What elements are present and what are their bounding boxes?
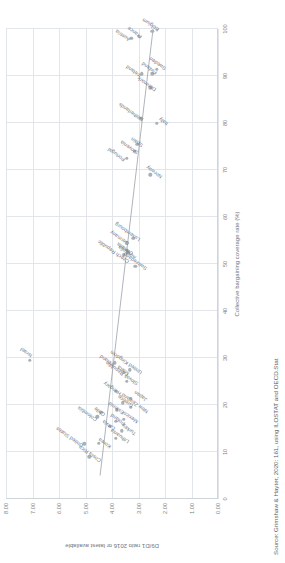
- y-tick-label: 1.00: [189, 503, 195, 533]
- data-point-label: Italy: [158, 116, 169, 126]
- data-point-label: Israel: [19, 347, 33, 359]
- point-labels: Costa RicaUnited StatesKoreaLithuaniaTur…: [6, 29, 218, 499]
- y-tick-label: 7.00: [30, 503, 36, 533]
- x-tick-label: 20: [222, 402, 228, 408]
- data-point-label: Netherlands: [118, 102, 144, 123]
- x-axis-title: Collective bargaining coverage rate (%): [234, 29, 240, 499]
- x-tick-label: 40: [222, 308, 228, 314]
- gridline-horizontal: [218, 29, 219, 499]
- scatter-figure: Costa RicaUnited StatesKoreaLithuaniaTur…: [0, 0, 285, 563]
- data-point-label: Norway: [146, 164, 164, 179]
- plot-area: Costa RicaUnited StatesKoreaLithuaniaTur…: [6, 29, 218, 499]
- y-axis-title: D9/D1 ratio 2016 or latest available: [65, 543, 159, 549]
- y-tick-label: 3.00: [136, 503, 142, 533]
- data-point-label: Hungary: [103, 380, 122, 396]
- chart-page: Costa RicaUnited StatesKoreaLithuaniaTur…: [0, 0, 285, 563]
- data-point-label: United States: [55, 425, 84, 448]
- x-tick-label: 0: [222, 497, 228, 500]
- y-tick-label: 5.00: [83, 503, 89, 533]
- x-tick-label: 80: [222, 120, 228, 126]
- source-note: Source: Grimshaw & Hayter, 2020: 161, us…: [272, 359, 279, 555]
- x-tick-label: 100: [222, 24, 228, 33]
- data-point-label: Korea: [97, 437, 112, 449]
- y-tick-label: 2.00: [162, 503, 168, 533]
- x-tick-label: 60: [222, 214, 228, 220]
- x-tick-label: 70: [222, 167, 228, 173]
- data-point-label: Portugal: [107, 147, 126, 163]
- x-tick-label: 30: [222, 355, 228, 361]
- y-tick-label: 6.00: [56, 503, 62, 533]
- y-tick-label: 8.00: [3, 503, 9, 533]
- x-tick-label: 90: [222, 73, 228, 79]
- data-point-label: Denmark: [137, 75, 158, 92]
- data-point-label: Belgium: [142, 17, 161, 32]
- y-tick-label: 0.00: [215, 503, 221, 533]
- x-tick-label: 50: [222, 261, 228, 267]
- x-tick-label: 10: [222, 449, 228, 455]
- y-tick-label: 4.00: [109, 503, 115, 533]
